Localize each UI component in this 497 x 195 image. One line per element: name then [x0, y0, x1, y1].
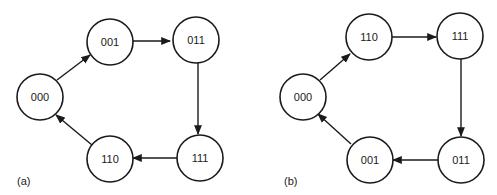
state-node-b-001: 001 [347, 137, 393, 183]
state-label: 000 [294, 91, 312, 103]
state-label: 000 [31, 91, 49, 103]
state-label: 111 [452, 30, 469, 42]
state-label: 110 [101, 153, 119, 165]
state-diagram: 000 001 011 111 110 (a) 000 [0, 0, 497, 195]
edge-b-000-110 [320, 54, 350, 80]
state-node-b-011: 011 [438, 137, 484, 183]
state-node-b-110: 110 [346, 14, 392, 60]
state-node-a-000: 000 [17, 74, 63, 120]
state-node-a-001: 001 [87, 19, 133, 65]
state-label: 001 [101, 36, 119, 48]
panel-label-a: (a) [17, 175, 30, 187]
state-node-a-110: 110 [87, 136, 133, 182]
state-node-b-000: 000 [280, 74, 326, 120]
panel-label-b: (b) [284, 175, 297, 187]
state-label: 011 [452, 154, 470, 166]
panel-a: 000 001 011 111 110 (a) [17, 17, 223, 187]
edge-b-001-000 [318, 114, 351, 144]
state-node-a-011: 011 [173, 17, 219, 63]
state-label: 011 [187, 34, 205, 46]
state-label: 111 [192, 152, 209, 164]
edge-a-110-000 [56, 115, 92, 145]
state-node-b-111: 111 [437, 13, 483, 59]
state-label: 001 [361, 154, 379, 166]
state-label: 110 [360, 31, 378, 43]
edge-a-000-001 [57, 55, 90, 80]
panel-b: 000 110 111 011 001 (b) [280, 13, 484, 187]
state-node-a-111: 111 [177, 135, 223, 181]
